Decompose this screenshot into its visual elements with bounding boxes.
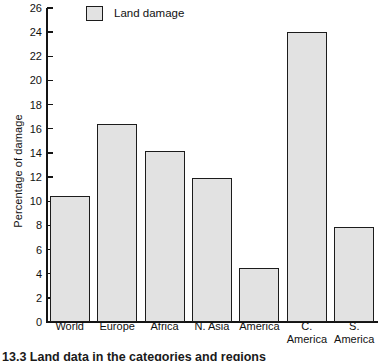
- y-axis-label: Percentage of damage: [12, 91, 24, 251]
- y-axis-tick-label: 0: [36, 317, 42, 328]
- x-axis-category-label: S. America: [331, 320, 378, 345]
- y-axis-tick: [47, 56, 53, 57]
- x-axis-category-label: N. Asia: [188, 320, 235, 333]
- y-axis-tick: [47, 80, 53, 81]
- y-axis-tick-label: 2: [36, 292, 42, 303]
- y-axis-tick-label: 12: [30, 172, 42, 183]
- y-axis-tick-label: 16: [30, 123, 42, 134]
- y-axis-tick-label: 24: [30, 27, 42, 38]
- bar: [145, 151, 185, 322]
- bar-chart: Percentage of damage Land damage 0246810…: [0, 0, 383, 361]
- y-axis-tick-label: 10: [30, 196, 42, 207]
- bar: [334, 227, 374, 322]
- y-axis-tick-label: 22: [30, 51, 42, 62]
- x-axis-category-label: America: [236, 320, 283, 333]
- y-axis-tick: [47, 104, 53, 105]
- bar: [97, 124, 137, 322]
- y-axis-tick-label: 14: [30, 147, 42, 158]
- y-axis-tick: [47, 176, 53, 177]
- y-axis-tick-label: 6: [36, 244, 42, 255]
- x-axis-category-label: World: [46, 320, 93, 333]
- x-axis-category-label: Africa: [141, 320, 188, 333]
- bar: [50, 196, 90, 322]
- x-axis-category-label: C. America: [283, 320, 330, 345]
- y-axis-tick-label: 8: [36, 220, 42, 231]
- y-axis-tick: [47, 152, 53, 153]
- figure-caption: 13.3 Land data in the categories and reg…: [2, 351, 381, 361]
- plot-area: 02468101214161820222426: [46, 8, 378, 322]
- y-axis-tick: [47, 128, 53, 129]
- y-axis-tick: [47, 7, 53, 8]
- x-axis-category-label: Europe: [93, 320, 140, 333]
- bar: [287, 32, 327, 322]
- y-axis-tick-label: 4: [36, 268, 42, 279]
- bar: [239, 268, 279, 322]
- y-axis-tick-label: 26: [30, 3, 42, 14]
- y-axis-tick: [47, 31, 53, 32]
- y-axis-tick-label: 20: [30, 75, 42, 86]
- bar: [192, 178, 232, 322]
- y-axis-tick-label: 18: [30, 99, 42, 110]
